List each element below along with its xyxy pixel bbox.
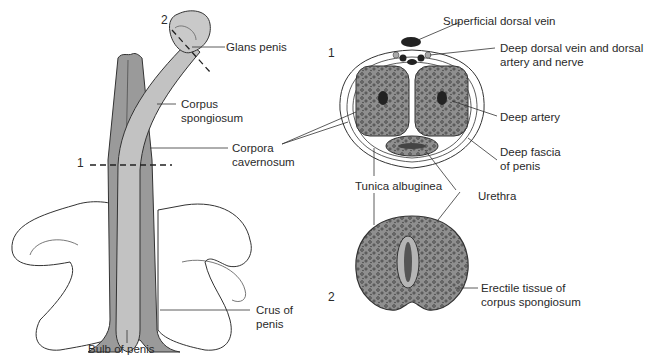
label-deep-fascia-line2: of penis (500, 160, 540, 173)
label-urethra: Urethra (478, 190, 516, 203)
label-corpora-cavernosum-line1: Corpora (232, 142, 274, 155)
label-corpora-cavernosum-line2: cavernosum (232, 156, 295, 169)
label-bulb-of-penis: Bulb of penis (88, 343, 155, 356)
section-2-number: 2 (328, 290, 335, 304)
label-glans-penis: Glans penis (226, 41, 287, 54)
label-deep-dorsal-line2: artery and nerve (500, 56, 584, 69)
label-corpus-spongiosum-line2: spongiosum (181, 112, 243, 125)
section-mark-2: 2 (161, 13, 168, 27)
section-1-number: 1 (328, 46, 335, 60)
label-deep-fascia-line1: Deep fascia (500, 146, 561, 159)
label-deep-artery: Deep artery (500, 111, 560, 124)
label-erectile-tissue-line1: Erectile tissue of (481, 282, 565, 295)
label-erectile-tissue-line2: corpus spongiosum (481, 296, 581, 309)
cross-section-2 (356, 216, 468, 310)
section-mark-1: 1 (77, 156, 84, 170)
label-crus-line2: penis (256, 318, 284, 331)
label-deep-dorsal-line1: Deep dorsal vein and dorsal (500, 42, 643, 55)
label-superficial-dorsal-vein: Superficial dorsal vein (443, 15, 556, 28)
label-corpus-spongiosum-line1: Corpus (181, 98, 218, 111)
label-tunica-albuginea: Tunica albuginea (355, 180, 442, 193)
label-crus-line1: Crus of (256, 304, 293, 317)
cross-section-1 (340, 37, 484, 168)
